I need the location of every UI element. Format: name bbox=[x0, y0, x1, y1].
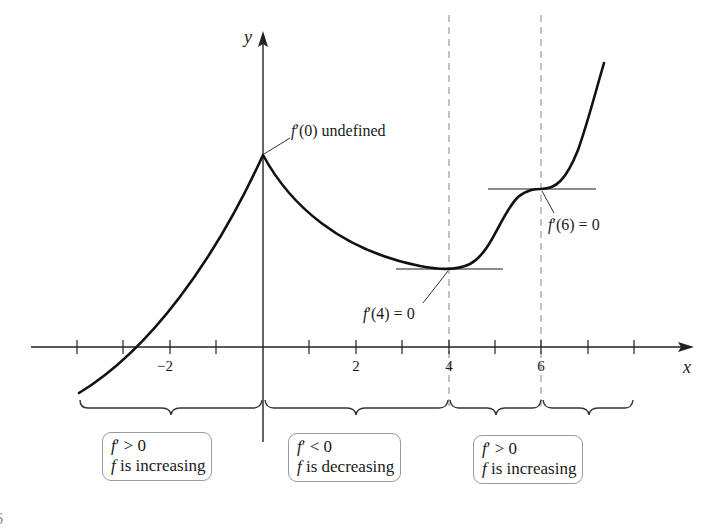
interval-box-decreasing: f′ < 0 f is decreasing bbox=[288, 433, 401, 482]
x-tick-label-neg2: −2 bbox=[157, 358, 173, 375]
leader-line-plateau bbox=[542, 191, 554, 213]
annotation-min-text: ′(4) = 0 bbox=[367, 305, 414, 322]
box2-sign: ′ < 0 bbox=[302, 437, 332, 456]
interval-braces bbox=[80, 400, 633, 415]
y-axis-label: y bbox=[244, 28, 252, 46]
x-axis-label: x bbox=[683, 358, 691, 376]
x-tick-label-2: 2 bbox=[352, 358, 360, 375]
brace-interval-2 bbox=[265, 400, 448, 415]
annotation-cusp-text: ′(0) undefined bbox=[295, 122, 385, 139]
box1-behavior: is increasing bbox=[116, 456, 206, 475]
annotation-min: f′(4) = 0 bbox=[363, 305, 415, 323]
brace-interval-4 bbox=[543, 400, 633, 415]
annotation-plateau-text: ′(6) = 0 bbox=[552, 216, 599, 233]
interval-box-increasing-left: f′ > 0 f is increasing bbox=[102, 432, 212, 481]
brace-interval-3 bbox=[450, 400, 541, 415]
box2-behavior: is decreasing bbox=[302, 457, 395, 476]
leader-line-min bbox=[423, 271, 448, 303]
box1-sign: ′ > 0 bbox=[116, 436, 146, 455]
leader-line-cusp bbox=[264, 138, 290, 154]
annotation-plateau: f′(6) = 0 bbox=[548, 216, 600, 234]
brace-interval-1 bbox=[80, 400, 262, 415]
x-tick-label-4: 4 bbox=[445, 358, 453, 375]
interval-box-increasing-right: f′ > 0 f is increasing bbox=[473, 435, 583, 484]
box3-behavior: is increasing bbox=[487, 459, 577, 478]
box3-sign: ′ > 0 bbox=[487, 439, 517, 458]
x-tick-label-6: 6 bbox=[537, 358, 545, 375]
annotation-cusp: f′(0) undefined bbox=[291, 122, 386, 140]
function-curve bbox=[79, 63, 604, 393]
figure-number-fragment: 6 bbox=[0, 510, 3, 528]
